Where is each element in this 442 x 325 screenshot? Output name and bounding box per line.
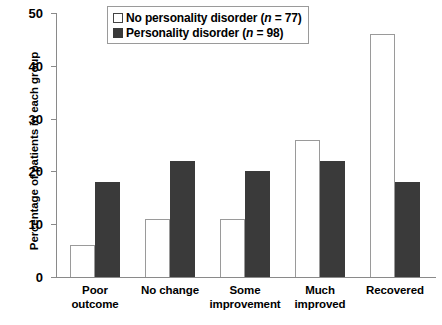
y-tick-label-30: 30 xyxy=(29,112,43,125)
x-axis-label-line: improvement xyxy=(208,297,282,311)
bar-series-container xyxy=(56,13,436,277)
y-tick-label-40: 40 xyxy=(29,59,43,72)
legend-label-personality-disorder: Personality disorder (n = 98) xyxy=(126,26,283,40)
y-tick-label-10: 10 xyxy=(29,218,43,231)
bar-personality-disorder-5 xyxy=(395,182,420,277)
y-tick-label-50: 50 xyxy=(29,7,43,20)
x-axis-line xyxy=(56,277,436,278)
legend-swatch-icon-light xyxy=(113,13,123,23)
x-axis-label-3: Someimprovement xyxy=(208,283,282,311)
bar-chart: Percentage of patients in each group 010… xyxy=(0,0,442,325)
bar-no-personality-disorder-3 xyxy=(220,219,245,277)
bar-personality-disorder-3 xyxy=(245,171,270,277)
x-axis-label-2: No change xyxy=(133,283,207,297)
x-axis-label-line: improved xyxy=(283,297,357,311)
x-axis-label-line: outcome xyxy=(58,297,132,311)
bar-personality-disorder-1 xyxy=(95,182,120,277)
y-tick-label-20: 20 xyxy=(29,165,43,178)
x-axis-label-line: Recovered xyxy=(358,283,432,297)
x-axis-label-line: No change xyxy=(133,283,207,297)
bar-no-personality-disorder-2 xyxy=(145,219,170,277)
bar-no-personality-disorder-1 xyxy=(70,245,95,277)
legend-label-no-personality-disorder: No personality disorder (n = 77) xyxy=(126,11,302,25)
bar-no-personality-disorder-4 xyxy=(295,140,320,277)
y-tick-label-0: 0 xyxy=(36,271,43,284)
bar-personality-disorder-2 xyxy=(170,161,195,277)
x-axis-label-4: Muchimproved xyxy=(283,283,357,311)
x-axis-labels: PooroutcomeNo changeSomeimprovementMuchi… xyxy=(56,283,436,323)
x-axis-label-line: Some xyxy=(208,283,282,297)
plot-area: 01020304050 xyxy=(56,13,436,277)
x-axis-label-line: Much xyxy=(283,283,357,297)
x-axis-label-line: Poor xyxy=(58,283,132,297)
bar-personality-disorder-4 xyxy=(320,161,345,277)
legend: No personality disorder (n = 77) Persona… xyxy=(107,6,309,44)
x-axis-label-5: Recovered xyxy=(358,283,432,297)
bar-no-personality-disorder-5 xyxy=(370,34,395,277)
y-tick-0: 0 xyxy=(51,277,56,278)
x-axis-label-1: Pooroutcome xyxy=(58,283,132,311)
legend-item-personality-disorder: Personality disorder (n = 98) xyxy=(113,25,302,40)
legend-swatch-icon-dark xyxy=(113,28,123,38)
legend-item-no-personality-disorder: No personality disorder (n = 77) xyxy=(113,10,302,25)
